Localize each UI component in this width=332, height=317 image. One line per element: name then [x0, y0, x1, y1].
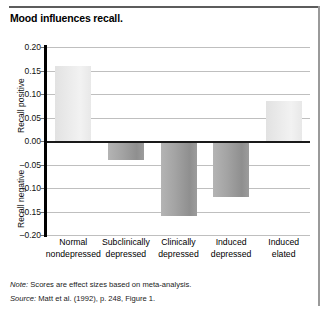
- y-axis-tick-label: 0.15: [24, 66, 41, 76]
- zero-line: [44, 141, 310, 143]
- y-axis-title-negative: Recall negative: [16, 170, 26, 228]
- bar-normal-nondepressed: [55, 66, 91, 141]
- figure-container: Mood influences recall. 0.200.150.100.05…: [0, 0, 332, 317]
- plot-area: [47, 47, 310, 235]
- note-text: Scores are effect sizes based on meta-an…: [28, 280, 191, 289]
- figure-source: Source: Matt et al. (1992), p. 248, Figu…: [10, 294, 155, 303]
- figure-note: Note: Scores are effect sizes based on m…: [10, 280, 191, 289]
- y-axis-tick-label: –0.05: [20, 160, 41, 170]
- y-axis-title-positive: Recall positive: [16, 78, 26, 133]
- y-axis-tick-label: 0.20: [24, 42, 41, 52]
- x-axis-label-induced-depressed: Induceddepressed: [201, 237, 262, 260]
- y-axis-line: [44, 45, 47, 237]
- figure-right-rule: [318, 6, 320, 306]
- bar-subclinically-depressed: [108, 141, 144, 160]
- figure-top-rule: [9, 6, 319, 8]
- y-axis-tick-label: –0.20: [20, 230, 41, 240]
- source-label: Source:: [10, 294, 36, 303]
- figure-title: Mood influences recall.: [10, 12, 123, 24]
- bar-clinically-depressed: [161, 141, 197, 216]
- x-axis-label-subclinically-depressed: Subclinicallydepressed: [96, 237, 157, 260]
- gridline: [47, 235, 310, 236]
- bar-induced-elated: [266, 101, 302, 141]
- x-axis-label-normal-nondepressed: Normalnondepressed: [43, 237, 104, 260]
- x-axis-category-labels: NormalnondepressedSubclinicallydepressed…: [47, 237, 310, 267]
- y-axis-tick-label: 0.00: [24, 136, 41, 146]
- gridline: [47, 47, 310, 48]
- note-label: Note:: [10, 280, 28, 289]
- source-text: Matt et al. (1992), p. 248, Figure 1.: [36, 294, 155, 303]
- bar-induced-depressed: [213, 141, 249, 197]
- x-axis-label-induced-elated: Inducedelated: [253, 237, 314, 260]
- y-axis-tick-label: 0.05: [24, 113, 41, 123]
- x-axis-label-clinically-depressed: Clinicallydepressed: [148, 237, 209, 260]
- y-axis-tick-label: 0.10: [24, 89, 41, 99]
